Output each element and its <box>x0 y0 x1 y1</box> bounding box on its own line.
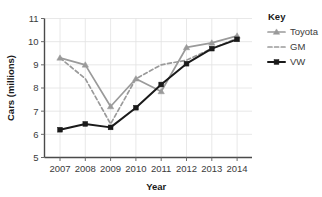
legend-entry-vw: VW <box>268 56 305 67</box>
y-tick-label: 5 <box>33 152 38 163</box>
x-tick-label: 2007 <box>49 163 70 174</box>
data-point-vw <box>58 127 63 132</box>
data-point-vw <box>209 46 214 51</box>
horizontal-gridlines <box>45 19 253 135</box>
legend-label-toyota: Toyota <box>290 26 319 37</box>
x-tick-label: 2012 <box>176 163 197 174</box>
y-tick-label: 10 <box>28 36 39 47</box>
line-chart: 567891011 200720082009201020112012201320… <box>0 0 322 197</box>
x-tick-label: 2009 <box>100 163 121 174</box>
data-point-vw <box>159 82 164 87</box>
data-point-vw <box>184 61 189 66</box>
x-tick-label: 2010 <box>125 163 146 174</box>
data-point-vw <box>108 125 113 130</box>
y-tick-label: 8 <box>33 82 38 93</box>
legend-title: Key <box>268 11 286 22</box>
legend-entries: ToyotaGMVW <box>268 26 319 67</box>
legend-entry-toyota: Toyota <box>268 26 319 37</box>
data-series-layer <box>57 33 241 132</box>
data-point-vw <box>235 37 240 42</box>
y-tick-label: 6 <box>33 129 38 140</box>
data-point-vw <box>134 105 139 110</box>
data-point-vw <box>274 60 279 65</box>
y-axis-tick-labels: 567891011 <box>28 13 39 163</box>
legend: Key ToyotaGMVW <box>268 11 319 67</box>
legend-entry-gm: GM <box>268 41 305 52</box>
x-tick-label: 2014 <box>227 163 248 174</box>
y-tick-label: 11 <box>29 13 39 24</box>
x-axis-tick-labels: 20072008200920102011201220132014 <box>49 163 247 174</box>
data-point-vw <box>83 122 88 127</box>
y-tick-label: 9 <box>33 59 38 70</box>
legend-label-gm: GM <box>290 41 305 52</box>
legend-label-vw: VW <box>290 56 305 67</box>
x-axis-title: Year <box>146 181 166 192</box>
x-tick-label: 2013 <box>201 163 222 174</box>
y-axis-title: Cars (millions) <box>5 55 16 121</box>
x-tick-label: 2011 <box>151 163 171 174</box>
chart-canvas: 567891011 200720082009201020112012201320… <box>0 0 322 197</box>
x-tick-label: 2008 <box>75 163 96 174</box>
y-tick-label: 7 <box>33 106 38 117</box>
